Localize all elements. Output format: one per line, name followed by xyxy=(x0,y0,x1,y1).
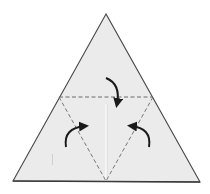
bottom-edge xyxy=(13,181,200,182)
origami-diagram xyxy=(0,0,210,194)
